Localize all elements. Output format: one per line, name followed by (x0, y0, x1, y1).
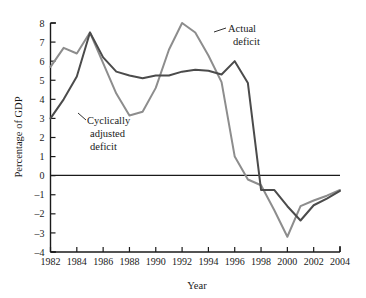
y-tick-label: –3 (34, 228, 45, 239)
y-tick-label: 3 (40, 113, 45, 124)
y-tick-label-group: 876543210–1–2–3–4 (34, 18, 45, 258)
cyclically-adjusted-label-line1: Cyclically (87, 115, 131, 126)
actual-deficit-label-line1: Actual (228, 23, 256, 34)
x-tick-label: 2004 (330, 256, 350, 267)
x-tick-label: 2002 (304, 256, 324, 267)
cyclically-adjusted-label-line3: deficit (90, 141, 117, 152)
x-axis-title: Year (187, 280, 207, 291)
actual-deficit-leader-line (214, 28, 226, 32)
series-line-cyclically-adjusted-deficit (51, 33, 341, 221)
chart-canvas: 876543210–1–2–3–4 1982198419861988199019… (0, 0, 366, 298)
y-tick-label: 7 (40, 37, 45, 48)
y-tick-label: –2 (34, 208, 45, 219)
y-tick-marks (51, 23, 56, 252)
x-tick-label: 1994 (198, 256, 218, 267)
x-tick-label: 1984 (67, 256, 87, 267)
y-tick-label: 5 (40, 75, 45, 86)
x-tick-label-group: 1982198419861988199019921994199619982000… (41, 256, 351, 267)
x-tick-label: 1998 (251, 256, 271, 267)
x-tick-label: 1990 (146, 256, 166, 267)
y-tick-label: 4 (40, 94, 45, 105)
x-tick-label: 1986 (93, 256, 113, 267)
x-tick-label: 2000 (277, 256, 297, 267)
y-axis-title: Percentage of GDP (13, 96, 24, 177)
y-tick-label: 0 (40, 170, 45, 181)
y-tick-label: 1 (40, 151, 45, 162)
y-tick-label: 2 (40, 132, 45, 143)
cyclically-adjusted-label-line2: adjusted (90, 128, 126, 139)
cyclically-adjusted-leader-line (78, 113, 86, 120)
x-tick-marks (51, 247, 341, 252)
x-tick-label: 1996 (225, 256, 245, 267)
x-tick-label: 1992 (172, 256, 192, 267)
y-tick-label: –1 (34, 189, 45, 200)
chart-figure: 876543210–1–2–3–4 1982198419861988199019… (0, 0, 366, 298)
y-tick-label: 6 (40, 56, 45, 67)
x-tick-label: 1982 (41, 256, 61, 267)
actual-deficit-label-line2: deficit (233, 36, 260, 47)
y-tick-label: 8 (40, 18, 45, 29)
x-tick-label: 1988 (119, 256, 139, 267)
